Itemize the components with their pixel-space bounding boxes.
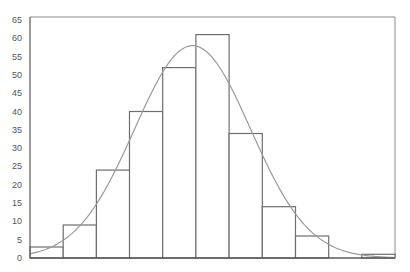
y-axis-ticks: 05101520253035404550556065	[12, 15, 22, 263]
histogram-bar	[262, 207, 295, 258]
histogram-bar	[130, 112, 163, 259]
y-tick-label: 20	[12, 180, 22, 190]
histogram-bars	[30, 35, 395, 258]
histogram-bar	[63, 225, 96, 258]
histogram-bar	[96, 170, 129, 258]
y-tick-label: 5	[17, 235, 22, 245]
y-tick-label: 55	[12, 52, 22, 62]
histogram-bar	[163, 68, 196, 258]
y-tick-label: 40	[12, 107, 22, 117]
y-tick-label: 35	[12, 125, 22, 135]
histogram-bar	[296, 236, 329, 258]
y-tick-label: 50	[12, 70, 22, 80]
y-tick-label: 25	[12, 161, 22, 171]
histogram-bar	[196, 35, 229, 258]
y-tick-label: 0	[17, 253, 22, 263]
y-tick-label: 15	[12, 198, 22, 208]
y-tick-label: 30	[12, 143, 22, 153]
histogram-chart: 05101520253035404550556065	[0, 0, 410, 272]
histogram-bar	[229, 134, 262, 259]
y-tick-label: 45	[12, 88, 22, 98]
y-tick-label: 10	[12, 216, 22, 226]
y-tick-label: 65	[12, 15, 22, 25]
y-tick-label: 60	[12, 33, 22, 43]
